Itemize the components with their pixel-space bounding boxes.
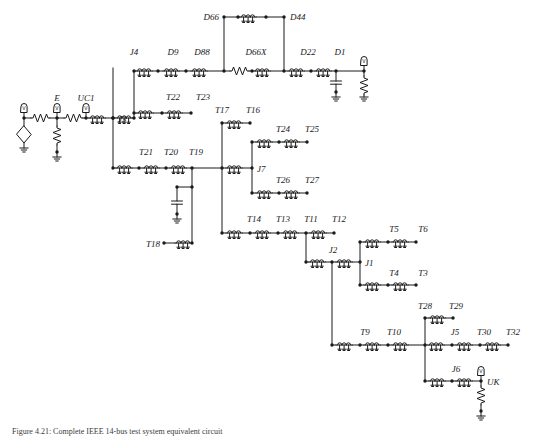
tl-bottom-mid	[388, 343, 425, 351]
voltage-source-symbol	[17, 118, 31, 152]
tl-T32	[480, 343, 508, 351]
probe-UK: V	[478, 367, 484, 382]
node-T29-end	[451, 316, 454, 319]
probe-UC1-glyph: V	[84, 105, 88, 111]
label-T6: T6	[418, 224, 428, 234]
schematic-figure: V V E	[0, 0, 537, 438]
source-branch: V V E	[17, 93, 113, 161]
tl-T10	[360, 343, 388, 351]
tl-T18	[162, 241, 192, 249]
tl-T13	[250, 231, 278, 239]
tl-D22	[284, 69, 311, 77]
label-J1: J1	[365, 258, 374, 268]
label-T27: T27	[305, 175, 320, 185]
probe-E: V	[54, 104, 60, 119]
label-T29: T29	[449, 301, 464, 311]
label-T19: T19	[189, 147, 204, 157]
label-T26: T26	[276, 175, 291, 185]
tl-T30	[452, 343, 480, 351]
circuit-schematic-canvas: V V E	[0, 0, 537, 438]
tl-T16	[222, 121, 252, 129]
tl-D66-D44	[224, 15, 284, 23]
probe-source-glyph: V	[22, 105, 26, 111]
label-T10: T10	[387, 327, 402, 337]
label-T18: T18	[146, 239, 161, 249]
chain-T21-T19: T21 T20 T19 J7	[111, 147, 266, 174]
label-E: E	[53, 93, 60, 103]
tl-T20	[139, 166, 166, 174]
label-T12: T12	[332, 214, 347, 224]
label-T32: T32	[506, 327, 521, 337]
cap-T19-shunt	[172, 187, 183, 223]
source-series-resistor-2	[57, 114, 86, 122]
res-UK-load	[477, 381, 485, 420]
loop-D66-D44: D66 D44	[203, 12, 306, 71]
label-T3: T3	[418, 268, 428, 278]
node-T32-end	[506, 343, 509, 346]
tl-T19	[166, 166, 192, 174]
tl-T11	[278, 231, 306, 239]
label-T16: T16	[246, 105, 261, 115]
label-J6: J6	[452, 364, 461, 374]
label-J7: J7	[257, 164, 266, 174]
res-D66X	[224, 67, 252, 75]
branch-T19-cap-T18: T18	[146, 168, 194, 249]
tl-T29	[425, 316, 455, 324]
tl-T17col-to-J7	[222, 166, 252, 174]
label-T30: T30	[477, 327, 492, 337]
label-D22: D22	[299, 47, 316, 57]
label-J4: J4	[130, 47, 139, 57]
node-T3-end	[414, 283, 417, 286]
tl-T25	[279, 140, 307, 148]
label-D88: D88	[193, 47, 210, 57]
tl-D9	[158, 69, 186, 77]
label-T21: T21	[139, 147, 153, 157]
node-T23-end	[189, 111, 192, 114]
label-J2: J2	[329, 245, 338, 255]
label-T4: T4	[389, 268, 399, 278]
label-T24: T24	[276, 124, 291, 134]
node-T27-end	[305, 191, 308, 194]
branch-J1-lower: T4 T3	[358, 268, 428, 291]
probe-source: V	[21, 104, 27, 119]
label-J5: J5	[451, 327, 460, 337]
tl-J2-right	[332, 260, 360, 268]
label-D66X: D66X	[245, 47, 267, 57]
tl-J3-to-J4-riser	[111, 71, 135, 124]
branch-J6-UK: J6 V UK	[423, 364, 500, 420]
tl-T21	[113, 166, 139, 174]
tl-J2-left	[306, 260, 332, 268]
node-T12-end	[332, 231, 335, 234]
probe-D1-glyph: V	[362, 58, 366, 64]
label-T28: T28	[418, 301, 433, 311]
tl-T9	[332, 343, 360, 351]
branch-T22-T23: T22 T23	[132, 92, 210, 119]
tl-D88	[186, 69, 224, 77]
tl-T6	[388, 240, 416, 248]
tl-T26	[252, 191, 279, 199]
tl-J6-left	[425, 379, 452, 387]
label-T17: T17	[215, 105, 230, 115]
tl-T3	[388, 283, 416, 291]
label-T9: T9	[360, 327, 370, 337]
node-T18-left	[162, 241, 165, 244]
tl-T27	[279, 191, 307, 199]
label-T22: T22	[166, 92, 181, 102]
label-D66: D66	[203, 12, 220, 22]
tl-T22	[134, 111, 162, 119]
tl-UC1	[86, 116, 113, 124]
tl-T23	[162, 111, 191, 119]
source-series-resistor-1	[24, 114, 57, 122]
label-T13: T13	[276, 214, 291, 224]
tl-T12	[306, 231, 334, 239]
branch-J1-upper: T5 T6	[358, 224, 428, 248]
node-T25-end	[305, 140, 308, 143]
tl-J4	[134, 69, 158, 77]
tl-T14	[222, 231, 250, 239]
label-T11: T11	[304, 214, 317, 224]
tl-J6-right	[452, 379, 481, 387]
E-shunt-resistor	[53, 118, 61, 161]
tl-J5	[425, 343, 452, 351]
probe-D1: V	[361, 57, 367, 72]
label-T20: T20	[164, 147, 179, 157]
